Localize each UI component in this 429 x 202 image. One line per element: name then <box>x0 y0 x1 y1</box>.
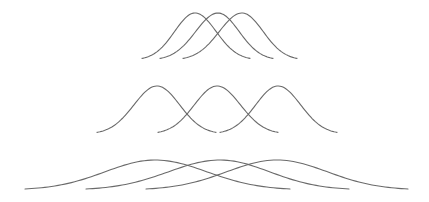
bell-curve-3 <box>183 13 297 58</box>
bell-curves-diagram <box>0 0 429 202</box>
row-wide-flat <box>25 160 408 189</box>
bell-curve-2 <box>158 86 278 132</box>
row-medium-spaced <box>97 86 337 132</box>
row-narrow-spaced <box>142 13 297 58</box>
bell-curve-3 <box>220 86 337 132</box>
diagram-canvas <box>0 0 429 202</box>
bell-curve-1 <box>97 86 216 132</box>
bell-curve-1 <box>142 13 250 58</box>
